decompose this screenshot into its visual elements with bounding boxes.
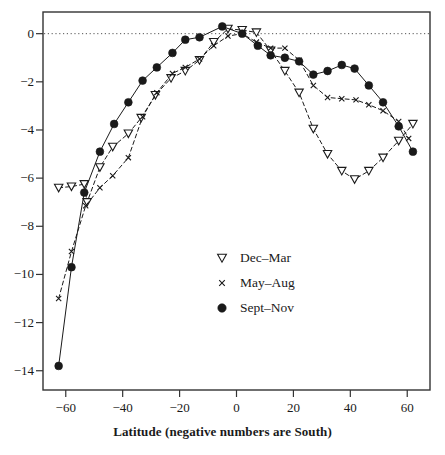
marker-triangle-down — [350, 176, 358, 184]
marker-x — [325, 95, 330, 100]
marker-triangle-down — [338, 167, 346, 175]
marker-circle — [218, 304, 226, 312]
marker-circle — [181, 36, 189, 44]
marker-circle — [379, 98, 387, 106]
marker-x — [311, 83, 316, 88]
legend-label-2: May–Aug — [240, 275, 295, 291]
marker-x — [366, 102, 371, 107]
marker-circle — [55, 362, 63, 370]
marker-circle — [169, 49, 177, 57]
y-axis-tick-label: −14 — [0, 363, 34, 379]
marker-triangle-down — [109, 143, 117, 151]
x-axis-tick-label: −20 — [169, 400, 189, 416]
marker-circle — [124, 98, 132, 106]
y-axis-tick-label: −8 — [0, 218, 34, 234]
marker-circle — [196, 33, 204, 41]
marker-circle — [96, 148, 104, 156]
x-axis-tick-label: 60 — [401, 400, 414, 416]
y-axis-tick-label: −2 — [0, 74, 34, 90]
marker-circle — [395, 122, 403, 130]
marker-x — [110, 173, 115, 178]
y-axis-tick-label: −6 — [0, 170, 34, 186]
marker-circle — [267, 51, 275, 59]
x-axis-tick-label: 0 — [233, 400, 240, 416]
series-1 — [54, 25, 417, 206]
marker-circle — [309, 71, 317, 79]
x-axis-tick-label: 40 — [344, 400, 357, 416]
marker-circle — [80, 189, 88, 197]
marker-x — [69, 249, 74, 254]
series-2 — [56, 31, 411, 301]
x-axis-tick-label: −60 — [56, 400, 76, 416]
legend-entry-1 — [218, 254, 227, 262]
legend-entry-3 — [218, 304, 226, 312]
y-axis-tick-label: −12 — [0, 315, 34, 331]
legend-label-1: Dec–Mar — [240, 250, 291, 266]
series-3 — [55, 23, 417, 370]
marker-triangle-down — [252, 29, 260, 37]
y-axis-tick-label: −4 — [0, 122, 34, 138]
marker-circle — [281, 54, 289, 62]
x-axis-title: Latitude (negative numbers are South) — [0, 424, 445, 440]
marker-circle — [238, 30, 246, 38]
chart-canvas — [0, 0, 445, 455]
marker-triangle-down — [151, 91, 159, 99]
legend-entry-2 — [219, 280, 225, 286]
x-axis-tick-label: −40 — [113, 400, 133, 416]
marker-triangle-down — [96, 164, 104, 172]
marker-circle — [110, 120, 118, 128]
marker-x — [97, 185, 102, 190]
x-axis-tick-label: 20 — [287, 400, 300, 416]
series-line — [59, 26, 413, 365]
marker-circle — [139, 77, 147, 85]
marker-circle — [68, 263, 76, 271]
y-axis-tick-label: −10 — [0, 266, 34, 282]
marker-x — [219, 280, 225, 286]
marker-triangle-down — [218, 254, 227, 262]
marker-circle — [295, 57, 303, 65]
marker-triangle-down — [281, 67, 289, 75]
marker-circle — [254, 42, 262, 50]
marker-circle — [338, 61, 346, 69]
legend-label-3: Sept–Nov — [240, 300, 294, 316]
marker-triangle-down — [309, 125, 317, 133]
marker-circle — [365, 82, 373, 90]
marker-x — [380, 108, 385, 113]
plot-frame — [43, 12, 430, 390]
marker-circle — [351, 65, 359, 73]
series-line — [59, 34, 409, 299]
marker-circle — [218, 23, 226, 31]
marker-circle — [153, 63, 161, 71]
chart-figure: 0−2−4−6−8−10−12−14−60−40−200204060Latitu… — [0, 0, 445, 455]
marker-triangle-down — [323, 150, 331, 158]
y-axis-tick-label: 0 — [0, 26, 34, 42]
marker-triangle-down — [365, 167, 373, 175]
marker-circle — [324, 67, 332, 75]
marker-x — [282, 46, 287, 51]
marker-circle — [409, 148, 417, 156]
marker-x — [126, 155, 131, 160]
marker-triangle-down — [295, 89, 303, 97]
